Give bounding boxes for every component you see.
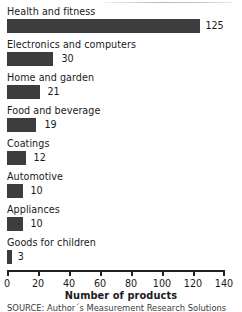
category-label: Home and garden [7,72,94,84]
category-label: Automotive [7,171,63,183]
x-axis-tick-label: 40 [63,278,75,289]
bar-row: Coatings 12 [0,138,242,171]
bar [7,151,26,165]
x-axis-tick-label: 80 [125,278,137,289]
bar [7,19,200,33]
x-axis-tick [7,270,9,276]
bar-row: Health and fitness 125 [0,6,242,39]
bar-row: Food and beverage 19 [0,105,242,138]
x-axis-tick-label: 0 [4,278,10,289]
bar-value-label: 21 [48,86,60,98]
category-label: Electronics and computers [7,39,136,51]
bar-value-label: 10 [31,185,43,197]
bar [7,118,36,132]
x-axis-tick [38,270,40,276]
bar-value-label: 3 [18,251,24,263]
x-axis-tick [223,270,225,276]
bar-value-label: 125 [205,20,223,32]
source-note: SOURCE: Author´s Measurement Research So… [7,303,239,312]
bar-value-label: 19 [44,119,56,131]
bar-row: Appliances 10 [0,204,242,237]
bar [7,217,23,231]
bar-row: Goods for children 3 [0,237,242,270]
x-axis-tick-label: 20 [32,278,44,289]
chart-plot-area: Health and fitness 125 Electronics and c… [0,6,242,270]
bar-value-label: 12 [34,152,46,164]
bar [7,85,40,99]
x-axis-tick [131,270,133,276]
bar-row: Automotive 10 [0,171,242,204]
x-axis-tick-label: 60 [94,278,106,289]
category-label: Health and fitness [7,6,95,18]
x-axis-tick [100,270,102,276]
category-label: Food and beverage [7,105,100,117]
x-axis-tick-label: 100 [153,278,171,289]
bar-value-label: 30 [61,53,73,65]
bar-row: Electronics and computers 30 [0,39,242,72]
x-axis-tick [162,270,164,276]
x-axis-title: Number of products [0,290,242,301]
x-axis-tick [69,270,71,276]
x-axis-tick-label: 120 [184,278,202,289]
x-axis-tick-label: 140 [215,278,233,289]
category-label: Coatings [7,138,49,150]
bar [7,52,53,66]
top-divider-rule [104,2,232,3]
bar-value-label: 10 [31,218,43,230]
category-label: Goods for children [7,237,96,249]
bar-chart-figure: Health and fitness 125 Electronics and c… [0,0,242,312]
bar-row: Home and garden 21 [0,72,242,105]
bar [7,184,23,198]
bar [7,250,12,264]
category-label: Appliances [7,204,60,216]
x-axis-tick [193,270,195,276]
